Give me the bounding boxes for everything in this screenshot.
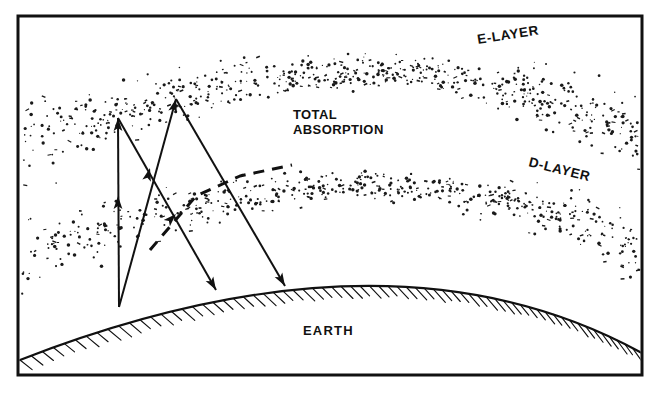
earth-label: EARTH bbox=[303, 323, 354, 338]
figure-frame bbox=[18, 16, 642, 375]
figure-root: E-LAYER D-LAYER TOTAL ABSORPTION EARTH bbox=[0, 0, 660, 399]
total-absorption-label-line1: TOTAL bbox=[293, 107, 337, 122]
total-absorption-label-line2: ABSORPTION bbox=[293, 122, 384, 137]
ionosphere-absorption-diagram: E-LAYER D-LAYER TOTAL ABSORPTION EARTH bbox=[0, 0, 660, 399]
vertical-ray bbox=[118, 118, 119, 307]
